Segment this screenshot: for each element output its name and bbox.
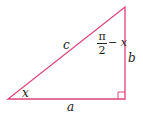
angle-x-label: x bbox=[22, 87, 29, 99]
angle-top-fraction: π 2 bbox=[97, 31, 107, 56]
angle-top-suffix: − x bbox=[108, 37, 127, 49]
side-b-label: b bbox=[128, 52, 136, 64]
fraction-denominator: 2 bbox=[97, 45, 107, 56]
right-angle-marker bbox=[118, 92, 125, 99]
fraction-numerator: π bbox=[97, 31, 107, 42]
side-a-label: a bbox=[67, 101, 74, 113]
right-triangle-diagram: c a b x π 2 − x bbox=[0, 0, 143, 114]
hypotenuse-label: c bbox=[63, 39, 70, 51]
